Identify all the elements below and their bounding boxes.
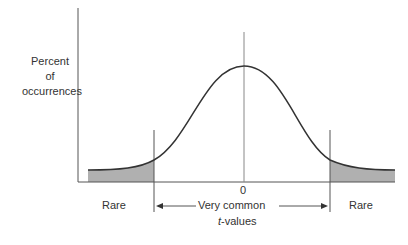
right-arrowhead-icon — [321, 203, 328, 209]
zero-tick-label: 0 — [240, 184, 246, 196]
ylabel-line: Percent — [22, 54, 78, 69]
left-arrowhead-icon — [156, 203, 163, 209]
right-rare-label: Rare — [349, 199, 373, 211]
very-common-label: Very common — [198, 199, 265, 211]
ylabel-line: of — [22, 69, 78, 84]
values-text: -values — [221, 215, 256, 227]
distribution-curve — [88, 66, 395, 170]
t-distribution-diagram: Percent of occurrences 0 Rare Very commo… — [0, 0, 408, 245]
x-axis-label: t-values — [218, 215, 257, 227]
left-rare-label: Rare — [102, 199, 126, 211]
ylabel-line: occurrences — [22, 84, 78, 99]
left-tail-shade — [88, 160, 154, 182]
y-axis-label: Percent of occurrences — [22, 54, 78, 99]
